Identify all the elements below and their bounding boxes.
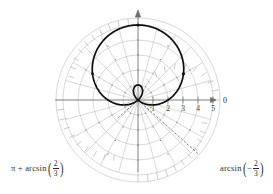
annotation-left: π + arcsin ( 2 3 ) [11,160,65,177]
marked-point-left [91,72,94,75]
annotation-left-numerator: 2 [53,160,59,169]
annotation-left-lead: π + arcsin [11,164,47,173]
annotation-right-fraction: 2 3 [253,160,259,177]
reference-angle-rays [117,100,200,155]
marked-point-upper-right [137,99,139,101]
radial-tick-label-2: 2 [166,104,170,113]
annotation-right-close-paren: ) [260,160,264,177]
annotation-right-numerator: 2 [253,160,259,169]
marked-point-right [182,72,185,75]
marked-point-top [136,23,139,26]
annotation-right-lead: arcsin [220,164,242,173]
annotation-left-close-paren: ) [60,160,64,177]
annotation-right-open-paren: ( [243,160,247,177]
annotation-right-denominator: 3 [253,169,259,177]
annotation-left-denominator: 3 [53,169,59,177]
annotation-right-sign: − [247,164,252,173]
radial-tick-labels: 1 2 3 4 5 [151,104,215,113]
annotation-left-fraction: 2 3 [53,160,59,177]
annotation-left-open-paren: ( [48,160,52,177]
radial-tick-label-5: 5 [211,104,215,113]
radial-tick-label-4: 4 [196,104,200,113]
annotation-right: arcsin ( − 2 3 ) [220,160,265,177]
radial-tick-label-3: 3 [181,104,185,113]
polar-axis-label: 0 [223,96,227,105]
